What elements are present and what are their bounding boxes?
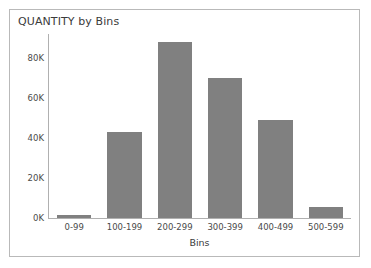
x-axis-tick-label: 100-199 [99,222,149,232]
bar-slot [49,34,99,218]
y-axis-tick-labels: 0K20K40K60K80K [14,34,44,218]
bar-slot [301,34,351,218]
bar-slot [99,34,149,218]
x-axis-tick-label: 0-99 [49,222,99,232]
bar[interactable] [258,120,292,218]
bar-slot [250,34,300,218]
bar[interactable] [107,132,141,218]
x-axis-title: Bins [48,237,351,248]
x-axis-tick-label: 200-299 [150,222,200,232]
bar[interactable] [309,207,343,218]
bar[interactable] [208,78,242,218]
bar-slot [200,34,250,218]
y-axis-tick-label: 80K [14,53,44,63]
y-axis-tick-label: 0K [14,213,44,223]
x-axis-tick-labels: 0-99100-199200-299300-399400-499500-599 [49,222,351,232]
chart-panel: QUANTITY by Bins 0K20K40K60K80K 0-99100-… [9,9,360,257]
bar[interactable] [158,42,192,218]
y-axis-tick-label: 40K [14,133,44,143]
chart-title: QUANTITY by Bins [18,15,119,28]
bar-slot [150,34,200,218]
x-axis-line [48,218,351,219]
x-axis-tick-label: 400-499 [250,222,300,232]
x-axis-tick-label: 500-599 [301,222,351,232]
x-axis-tick-label: 300-399 [200,222,250,232]
bar-series [49,34,351,218]
y-axis-tick-label: 60K [14,93,44,103]
y-axis-tick-label: 20K [14,173,44,183]
plot-area: 0K20K40K60K80K [48,34,351,218]
